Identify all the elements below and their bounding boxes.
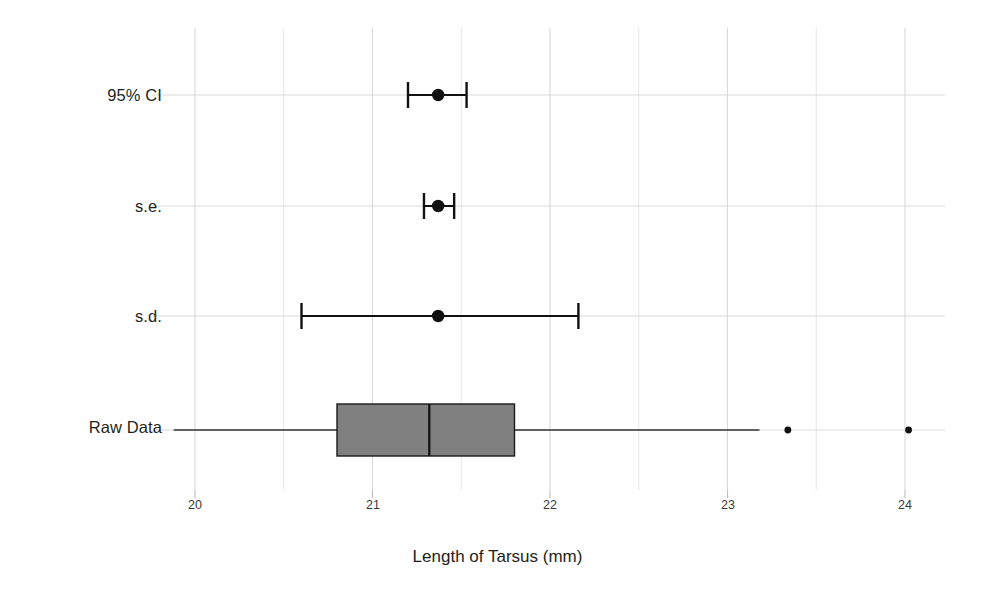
errorbar-95-ci — [408, 82, 467, 108]
xtick-label-23: 23 — [698, 498, 758, 512]
xtick-label-20: 20 — [165, 498, 225, 512]
xtick-label-24: 24 — [875, 498, 935, 512]
gridlines-horizontal — [152, 95, 945, 430]
category-label-se: s.e. — [0, 197, 162, 216]
axis-ticks — [195, 490, 905, 498]
boxplot-raw-data — [174, 404, 760, 456]
boxplot-figure: 95% CI s.e. s.d. Raw Data 20 21 22 23 24… — [0, 0, 995, 600]
xtick-label-22: 22 — [520, 498, 580, 512]
x-axis-title: Length of Tarsus (mm) — [0, 547, 995, 567]
category-label-sd: s.d. — [0, 307, 162, 326]
errorbar-sd — [302, 303, 579, 329]
errorbar-se — [424, 193, 454, 219]
category-label-95-ci: 95% CI — [0, 86, 162, 105]
category-label-raw-data: Raw Data — [0, 418, 162, 437]
xtick-label-21: 21 — [343, 498, 403, 512]
gridlines-vertical — [195, 28, 905, 490]
